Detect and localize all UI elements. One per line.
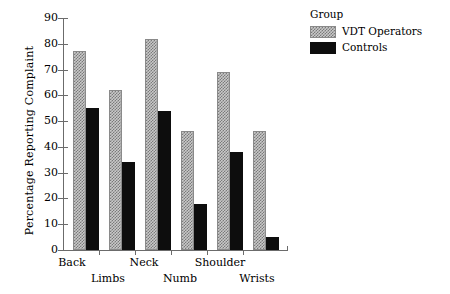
- x-category-label-back: Back: [47, 256, 97, 269]
- x-axis-end-tick: [287, 246, 288, 251]
- bar-vdt-limbs: [109, 90, 122, 250]
- legend-swatch-vdt-operators: [310, 26, 336, 38]
- y-tick-label: 20: [44, 191, 58, 204]
- bar-controls-numb: [194, 204, 207, 250]
- y-tick-label: 10: [44, 217, 58, 230]
- bar-vdt-neck: [145, 39, 158, 251]
- legend-title: Group: [310, 8, 422, 21]
- y-tick-mark: [58, 18, 68, 19]
- bar-vdt-numb: [181, 131, 194, 250]
- legend-label-controls: Controls: [342, 41, 387, 54]
- x-axis-line: [63, 250, 288, 251]
- y-tick-label: 50: [44, 114, 58, 127]
- y-tick-label: 70: [44, 63, 58, 76]
- y-tick-mark: [58, 250, 68, 251]
- y-tick-label: 80: [44, 37, 58, 50]
- x-tick-mark: [243, 250, 244, 255]
- y-tick-mark: [58, 44, 68, 45]
- y-tick-label: 30: [44, 166, 58, 179]
- legend-item-controls: Controls: [310, 41, 422, 54]
- x-tick-mark: [135, 250, 136, 255]
- y-axis-line: [63, 18, 64, 251]
- legend: Group VDT Operators Controls: [310, 8, 422, 57]
- x-category-label-numb: Numb: [155, 272, 205, 285]
- y-tick-mark: [58, 147, 68, 148]
- bar-chart-figure: Percentage Reporting Complaint 0 10 20 3…: [0, 0, 450, 294]
- y-tick-mark: [58, 95, 68, 96]
- legend-label-vdt-operators: VDT Operators: [342, 25, 422, 38]
- legend-swatch-controls: [310, 42, 336, 54]
- y-tick-mark: [58, 173, 68, 174]
- y-tick-mark: [58, 121, 68, 122]
- bar-vdt-wrists: [253, 131, 266, 250]
- bar-controls-wrists: [266, 237, 279, 250]
- y-tick-mark: [58, 70, 68, 71]
- y-tick-label: 90: [44, 11, 58, 24]
- plot-area: 0 10 20 30 40 50 60 70: [63, 18, 288, 251]
- y-tick-mark: [58, 198, 68, 199]
- x-tick-mark: [207, 250, 208, 255]
- x-category-label-shoulder: Shoulder: [186, 256, 254, 269]
- y-tick-label: 40: [44, 140, 58, 153]
- y-tick-label: 0: [51, 243, 58, 256]
- bar-controls-limbs: [122, 162, 135, 250]
- x-tick-mark: [171, 250, 172, 255]
- y-tick-label: 60: [44, 88, 58, 101]
- bar-controls-shoulder: [230, 152, 243, 250]
- legend-item-vdt-operators: VDT Operators: [310, 25, 422, 38]
- y-tick-mark: [58, 224, 68, 225]
- bar-controls-neck: [158, 111, 171, 250]
- x-category-label-wrists: Wrists: [227, 272, 287, 285]
- x-category-label-limbs: Limbs: [83, 272, 133, 285]
- bar-vdt-shoulder: [217, 72, 230, 250]
- bar-controls-back: [86, 108, 99, 250]
- bar-vdt-back: [73, 51, 86, 250]
- y-axis-title: Percentage Reporting Complaint: [23, 26, 36, 256]
- x-category-label-neck: Neck: [119, 256, 169, 269]
- x-tick-mark: [99, 250, 100, 255]
